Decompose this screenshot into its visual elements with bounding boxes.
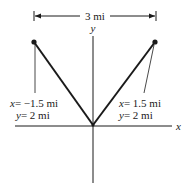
dimension-label: 3 mi <box>85 10 105 22</box>
left-point-label: x= −1.5 mi y= 2 mi <box>9 97 58 121</box>
svg-text:x= 1.5 mi: x= 1.5 mi <box>118 97 161 109</box>
right-leader-line <box>144 45 154 93</box>
left-y-value: = 2 mi <box>21 109 50 121</box>
origin-dot <box>91 123 94 126</box>
arrowhead-right-icon <box>149 14 155 19</box>
right-point-label: x= 1.5 mi y= 2 mi <box>118 97 161 121</box>
svg-text:y= 2 mi: y= 2 mi <box>15 109 50 121</box>
svg-text:y= 2 mi: y= 2 mi <box>118 109 153 121</box>
right-point-dot <box>152 39 157 44</box>
svg-text:x= −1.5 mi: x= −1.5 mi <box>9 97 58 109</box>
left-x-value: = −1.5 mi <box>15 97 58 109</box>
v-shaped-diagram: 3 mi y x x= −1.5 mi y= 2 mi x= 1.5 mi y=… <box>0 0 187 194</box>
arrowhead-left-icon <box>35 14 41 19</box>
right-y-value: = 2 mi <box>124 109 153 121</box>
x-axis-label: x <box>175 120 181 132</box>
y-axis-label: y <box>90 22 96 34</box>
left-point-dot <box>31 39 36 44</box>
right-x-value: = 1.5 mi <box>124 97 161 109</box>
